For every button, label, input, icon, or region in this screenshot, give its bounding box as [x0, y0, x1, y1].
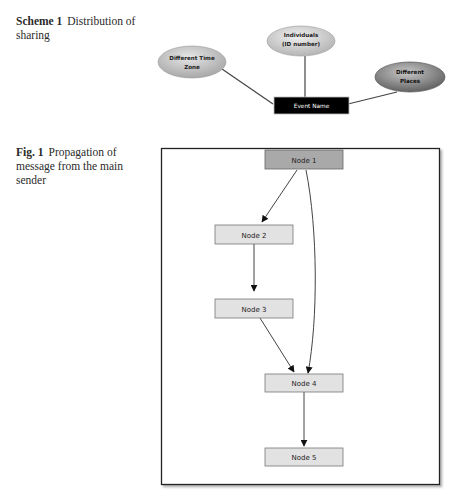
ellipse-individuals-line-1: Individuals: [284, 32, 319, 38]
node-3-label: Node 3: [242, 306, 267, 314]
connector-places: [348, 92, 397, 104]
event-name-box: Event Name: [274, 97, 349, 114]
node-1-label: Node 1: [292, 157, 317, 165]
figures-canvas: Different Time Zone Individuals (ID numb…: [0, 0, 471, 497]
node-2-label: Node 2: [242, 232, 267, 240]
scheme-1-diagram: Different Time Zone Individuals (ID numb…: [158, 26, 445, 114]
fig-1-frame: [162, 149, 440, 485]
ellipse-places-line-1: Different: [396, 69, 424, 75]
connector-time-zone: [222, 69, 273, 104]
ellipse-individuals: Individuals (ID number): [267, 26, 335, 56]
ellipse-time-zone-line-2: Zone: [184, 64, 200, 70]
ellipse-places-line-2: Places: [400, 78, 421, 84]
ellipse-individuals-line-2: (ID number): [282, 41, 321, 47]
node-2: Node 2: [215, 225, 293, 244]
node-3: Node 3: [215, 299, 293, 318]
node-5-label: Node 5: [292, 454, 317, 462]
event-name-label: Event Name: [294, 103, 330, 109]
node-5: Node 5: [265, 448, 343, 466]
node-4: Node 4: [265, 374, 343, 392]
node-4-label: Node 4: [292, 380, 317, 388]
fig-1-diagram: Node 1 Node 2 Node 3 Node 4 Node 5: [162, 149, 440, 485]
ellipse-time-zone-line-1: Different Time: [169, 55, 215, 61]
ellipse-places: Different Places: [375, 62, 445, 92]
ellipse-time-zone: Different Time Zone: [158, 46, 226, 78]
node-1: Node 1: [265, 150, 343, 169]
